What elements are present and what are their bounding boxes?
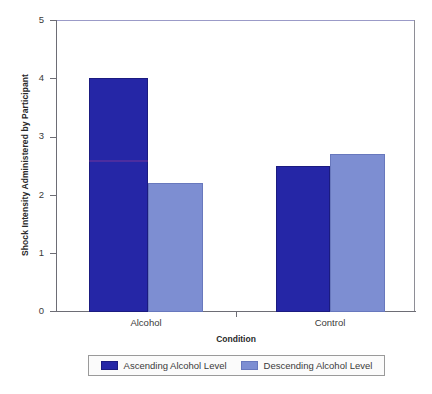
y-axis-title: Shock Intensity Administered by Particip… bbox=[20, 15, 30, 315]
legend-entry-descending[interactable]: Descending Alcohol Level bbox=[241, 360, 373, 371]
x-tick-mark-center bbox=[236, 312, 237, 317]
y-axis-line bbox=[56, 20, 57, 312]
x-tick-label-control: Control bbox=[270, 317, 390, 328]
bar-chart-figure: Shock Intensity Administered by Particip… bbox=[0, 0, 432, 394]
dark-blue-swatch-icon bbox=[101, 361, 118, 370]
y-tick-label-5: 5 bbox=[20, 15, 44, 25]
light-blue-swatch-icon bbox=[241, 361, 258, 370]
y-tick-label-0: 0 bbox=[20, 306, 44, 316]
y-tick-label-1: 1 bbox=[20, 248, 44, 258]
y-tick-label-3: 3 bbox=[20, 131, 44, 141]
bar-control-ascending[interactable] bbox=[276, 166, 330, 312]
bar-alcohol-descending[interactable] bbox=[148, 183, 203, 312]
x-axis-title: Condition bbox=[56, 334, 416, 344]
y-tick-label-4: 4 bbox=[20, 73, 44, 83]
legend-entry-ascending[interactable]: Ascending Alcohol Level bbox=[101, 360, 227, 371]
bar-control-descending[interactable] bbox=[330, 154, 385, 312]
legend-label-descending: Descending Alcohol Level bbox=[264, 360, 373, 371]
x-tick-label-alcohol: Alcohol bbox=[86, 317, 206, 328]
y-tick-label-2: 2 bbox=[20, 190, 44, 200]
bar-alcohol-ascending[interactable] bbox=[89, 78, 148, 312]
chart-legend: Ascending Alcohol Level Descending Alcoh… bbox=[88, 355, 385, 376]
legend-label-ascending: Ascending Alcohol Level bbox=[124, 360, 227, 371]
